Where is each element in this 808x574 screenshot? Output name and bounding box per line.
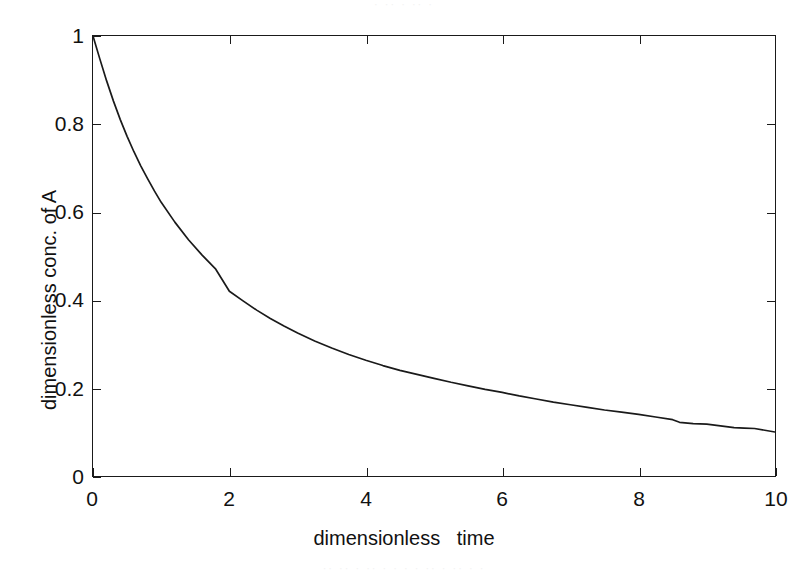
x-tick-mirror-8 <box>640 36 641 44</box>
x-tick-label-0: 0 <box>86 487 98 511</box>
y-tick-label-0.8: 0.8 <box>24 112 84 136</box>
y-tick-0.6 <box>93 213 101 214</box>
series-line-conc-of-A <box>93 36 775 432</box>
x-tick-label-8: 8 <box>633 487 645 511</box>
y-tick-label-1: 1 <box>24 24 84 48</box>
x-tick-label-2: 2 <box>223 487 235 511</box>
y-axis-title: dimensionless conc. of A <box>38 190 61 410</box>
x-tick-8 <box>640 468 641 476</box>
figure-canvas: · ·· · ·· · 1 0.8 0.6 0.4 0.2 0 <box>0 0 808 574</box>
y-tick-0.2 <box>93 389 101 390</box>
scan-artifact-top: · ·· · ·· · <box>0 0 808 9</box>
x-tick-mirror-2 <box>230 36 231 44</box>
x-tick-label-6: 6 <box>496 487 508 511</box>
x-tick-mirror-6 <box>503 36 504 44</box>
x-axis-title: dimensionless time <box>0 527 808 550</box>
y-tick-0 <box>93 477 101 478</box>
y-tick-0.8 <box>93 124 101 125</box>
decay-curve-svg <box>93 36 775 476</box>
x-tick-4 <box>367 468 368 476</box>
y-tick-1 <box>93 36 101 37</box>
y-tick-mirror-0.8 <box>767 124 775 125</box>
y-tick-mirror-0.2 <box>767 389 775 390</box>
plot-area <box>92 35 776 477</box>
y-tick-mirror-0.6 <box>767 213 775 214</box>
x-tick-0 <box>93 468 94 476</box>
y-tick-label-0: 0 <box>24 465 84 489</box>
y-tick-mirror-0.4 <box>767 301 775 302</box>
x-tick-10 <box>776 468 777 476</box>
x-tick-2 <box>230 468 231 476</box>
x-tick-label-4: 4 <box>360 487 372 511</box>
scan-artifact-bottom: ·· ·· · ·· · · · · ·· · ·· · · <box>0 563 808 574</box>
y-tick-0.4 <box>93 301 101 302</box>
x-tick-label-10: 10 <box>764 487 787 511</box>
x-tick-mirror-4 <box>367 36 368 44</box>
x-tick-6 <box>503 468 504 476</box>
